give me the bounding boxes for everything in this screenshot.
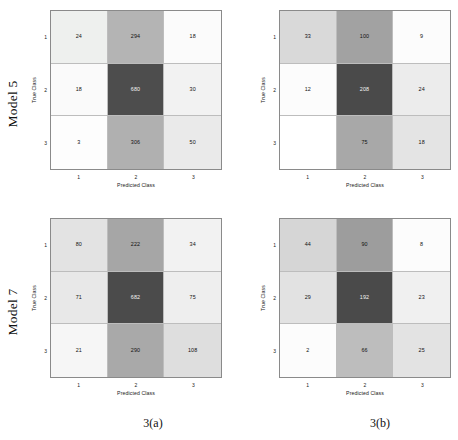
matrix-cell: 222 [108,219,165,272]
matrix-cell-value: 682 [131,295,140,300]
matrix-cell-value: 2 [306,348,309,353]
confusion-matrix-panel-model-5-b: True Class12333100912208247518123Predict… [255,10,458,206]
matrix-cell: 3 [51,116,108,169]
matrix-cell-value: 44 [305,242,311,247]
matrix-cell-value: 90 [361,242,367,247]
matrix-cell-value: 3 [77,140,80,145]
matrix-cell: 23 [393,272,450,325]
matrix-cell: 208 [337,64,394,117]
matrix-cell: 30 [164,64,221,117]
matrix-cell: 100 [337,11,394,64]
matrix-cell: 290 [108,324,165,377]
matrix-cell-value: 21 [76,348,82,353]
confusion-matrix-panel-model-7-a: True Class1238022234716827521290108123Pr… [26,218,229,414]
matrix-cell-value: 50 [190,140,196,145]
y-axis-tick-label: 1 [268,218,278,271]
y-axis-tick-label: 2 [268,63,278,116]
y-axis-title-text: True Class [260,77,266,103]
matrix-cell: 18 [51,64,108,117]
y-axis-tick-label: 1 [268,10,278,63]
matrix-cell-value: 290 [131,348,140,353]
matrix-cell-value: 30 [190,87,196,92]
matrix-cell: 294 [108,11,165,64]
matrix-cell-value: 12 [305,87,311,92]
matrix-cell-value: 66 [361,348,367,353]
matrix-cell: 9 [393,11,450,64]
matrix-cell: 50 [164,116,221,169]
confusion-matrix-grid: 33100912208247518 [279,10,451,170]
matrix-cell-value: 100 [360,34,369,39]
matrix-cell-value: 71 [76,295,82,300]
matrix-cell-value: 294 [131,34,140,39]
matrix-cell: 12 [280,64,337,117]
matrix-cell: 44 [280,219,337,272]
matrix-cell-value: 18 [190,34,196,39]
row-label-model-7-text: Model 7 [5,289,21,336]
row-label-model-5: Model 5 [0,14,26,194]
matrix-cell-value: 23 [419,295,425,300]
matrix-cell-value: 108 [188,348,197,353]
matrix-cell: 18 [393,116,450,169]
matrix-cell: 24 [51,11,108,64]
matrix-cell: 80 [51,219,108,272]
y-axis-title-text: True Class [31,285,37,311]
matrix-cell: 66 [337,324,394,377]
confusion-matrix-grid: 44908291922326625 [279,218,451,378]
matrix-cell-value: 29 [305,295,311,300]
y-axis-tick-label: 1 [39,10,49,63]
row-label-model-5-text: Model 5 [5,81,21,128]
matrix-cell-value: 222 [131,242,140,247]
matrix-cell: 33 [280,11,337,64]
matrix-cell-value: 18 [76,87,82,92]
matrix-cell: 24 [393,64,450,117]
matrix-cell-value: 34 [190,242,196,247]
y-axis-tick-label: 3 [268,325,278,378]
x-axis-title: Predicted Class [50,182,222,188]
figure-caption-a: 3(a) [93,416,213,431]
matrix-cell: 21 [51,324,108,377]
matrix-cell: 2 [280,324,337,377]
y-axis-ticks: 123 [39,218,49,378]
matrix-cell: 18 [164,11,221,64]
row-label-model-7: Model 7 [0,222,26,402]
matrix-cell: 90 [337,219,394,272]
figure-caption-b: 3(b) [320,416,440,431]
matrix-cell: 29 [280,272,337,325]
confusion-matrix-grid: 24294181868030330650 [50,10,222,170]
y-axis-ticks: 123 [268,10,278,170]
matrix-cell: 680 [108,64,165,117]
confusion-matrix-grid: 8022234716827521290108 [50,218,222,378]
matrix-cell-value: 192 [360,295,369,300]
y-axis-tick-label: 3 [39,117,49,170]
matrix-cell-value: 18 [419,140,425,145]
matrix-cell-value: 80 [76,242,82,247]
matrix-cell: 108 [164,324,221,377]
matrix-cell-value: 75 [190,295,196,300]
matrix-cell: 75 [337,116,394,169]
matrix-cell-value: 208 [360,87,369,92]
x-axis-title: Predicted Class [50,390,222,396]
y-axis-tick-label: 1 [39,218,49,271]
y-axis-title-text: True Class [260,285,266,311]
matrix-cell: 8 [393,219,450,272]
y-axis-tick-label: 3 [268,117,278,170]
x-axis-title: Predicted Class [279,182,451,188]
y-axis-tick-label: 2 [39,271,49,324]
y-axis-tick-label: 2 [39,63,49,116]
matrix-cell-value: 680 [131,87,140,92]
matrix-cell-value: 8 [420,242,423,247]
confusion-matrix-panel-model-7-b: True Class12344908291922326625123Predict… [255,218,458,414]
matrix-cell: 71 [51,272,108,325]
y-axis-tick-label: 2 [268,271,278,324]
matrix-cell: 306 [108,116,165,169]
y-axis-ticks: 123 [268,218,278,378]
y-axis-ticks: 123 [39,10,49,170]
matrix-cell: 34 [164,219,221,272]
matrix-cell: 192 [337,272,394,325]
matrix-cell-value: 24 [419,87,425,92]
matrix-cell-value: 33 [305,34,311,39]
matrix-cell-value: 24 [76,34,82,39]
matrix-cell: 75 [164,272,221,325]
matrix-cell [280,116,337,169]
matrix-cell-value: 9 [420,34,423,39]
